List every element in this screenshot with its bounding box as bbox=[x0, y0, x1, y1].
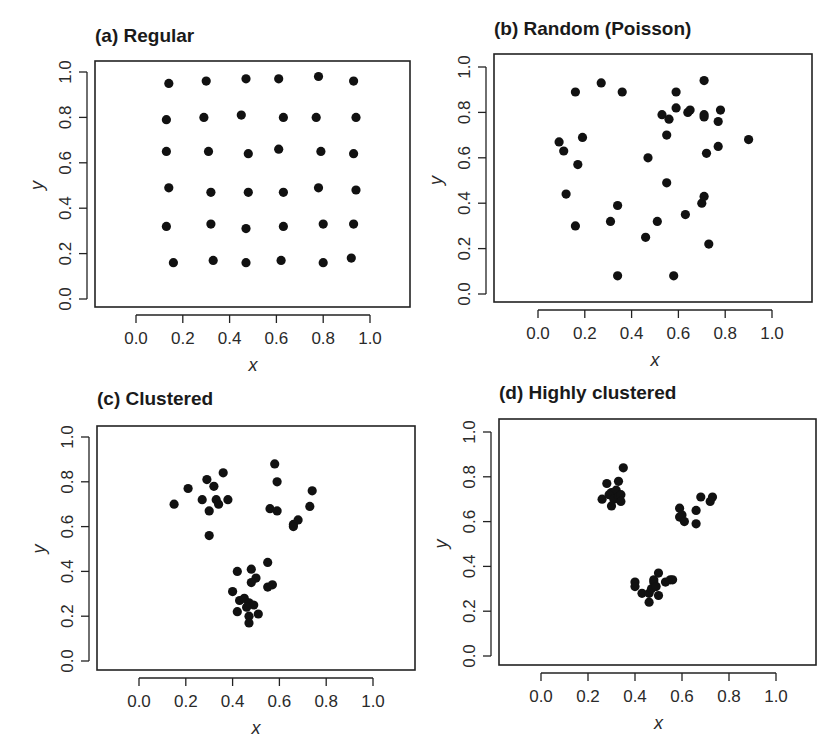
x-tick-label: 0.8 bbox=[713, 324, 737, 343]
data-point bbox=[233, 607, 242, 616]
x-axis-label: x bbox=[251, 718, 262, 738]
data-point bbox=[616, 497, 625, 506]
panel-c-clustered: (c) Clustered 0.00.20.40.60.81.0x0.00.20… bbox=[29, 388, 415, 738]
data-point bbox=[204, 147, 213, 156]
data-point bbox=[279, 113, 288, 122]
x-tick-label: 1.0 bbox=[760, 324, 784, 343]
data-point bbox=[607, 501, 616, 510]
y-axis: 0.00.20.40.60.81.0y bbox=[27, 60, 87, 311]
panel-d-highly-clustered: (d) Highly clustered 0.00.20.40.60.81.0x… bbox=[431, 382, 816, 733]
x-tick-label: 0.2 bbox=[576, 687, 600, 706]
data-point bbox=[700, 112, 709, 121]
y-tick-label: 0.4 bbox=[460, 555, 479, 579]
x-tick-label: 0.4 bbox=[218, 329, 242, 348]
y-tick-label: 0.2 bbox=[58, 604, 77, 628]
data-point bbox=[206, 188, 215, 197]
data-point bbox=[681, 210, 690, 219]
data-points bbox=[170, 459, 317, 627]
y-axis-label: y bbox=[27, 180, 47, 192]
data-point bbox=[202, 475, 211, 484]
plot-frame bbox=[499, 419, 816, 665]
data-point bbox=[247, 578, 256, 587]
y-axis-label: y bbox=[431, 539, 451, 551]
data-point bbox=[219, 468, 228, 477]
data-point bbox=[686, 106, 695, 115]
data-point bbox=[305, 502, 314, 511]
data-point bbox=[319, 220, 328, 229]
data-point bbox=[162, 147, 171, 156]
data-point bbox=[164, 183, 173, 192]
data-point bbox=[162, 115, 171, 124]
data-point bbox=[244, 149, 253, 158]
data-point bbox=[184, 484, 193, 493]
figure-caption-clipped bbox=[0, 748, 835, 754]
data-point bbox=[209, 256, 218, 265]
panel-b-random: (b) Random (Poisson) 0.00.20.40.60.81.0x… bbox=[426, 18, 812, 370]
y-tick-label: 0.2 bbox=[455, 237, 474, 261]
data-point bbox=[349, 220, 358, 229]
x-tick-label: 0.4 bbox=[623, 687, 647, 706]
x-tick-label: 0.0 bbox=[529, 687, 553, 706]
x-tick-label: 0.2 bbox=[573, 324, 597, 343]
data-point bbox=[199, 113, 208, 122]
data-point bbox=[274, 74, 283, 83]
y-axis: 0.00.20.40.60.81.0y bbox=[426, 55, 486, 306]
data-point bbox=[314, 72, 323, 81]
x-tick-label: 0.0 bbox=[127, 692, 151, 711]
y-tick-label: 0.2 bbox=[56, 242, 75, 266]
x-tick-label: 0.2 bbox=[174, 692, 198, 711]
data-point bbox=[700, 192, 709, 201]
y-tick-label: 0.0 bbox=[58, 649, 77, 673]
x-axis: 0.00.20.40.60.81.0x bbox=[127, 678, 385, 738]
data-point bbox=[214, 500, 223, 509]
data-point bbox=[652, 582, 661, 591]
data-point bbox=[242, 603, 251, 612]
data-point bbox=[696, 492, 705, 501]
data-point bbox=[241, 258, 250, 267]
x-tick-label: 0.0 bbox=[526, 324, 550, 343]
data-point bbox=[169, 258, 178, 267]
x-tick-label: 1.0 bbox=[764, 687, 788, 706]
data-point bbox=[662, 178, 671, 187]
y-tick-label: 0.8 bbox=[460, 465, 479, 489]
data-point bbox=[209, 482, 218, 491]
data-point bbox=[613, 271, 622, 280]
data-point bbox=[170, 500, 179, 509]
data-point bbox=[202, 77, 211, 86]
data-point bbox=[244, 618, 253, 627]
data-point bbox=[618, 87, 627, 96]
data-point bbox=[347, 254, 356, 263]
x-tick-label: 1.0 bbox=[358, 329, 382, 348]
data-point bbox=[273, 506, 282, 515]
y-tick-label: 0.6 bbox=[58, 515, 77, 539]
data-point bbox=[680, 517, 689, 526]
data-point bbox=[223, 495, 232, 504]
data-point bbox=[578, 133, 587, 142]
y-axis: 0.00.20.40.60.81.0y bbox=[431, 420, 491, 668]
data-point bbox=[662, 131, 671, 140]
data-point bbox=[716, 106, 725, 115]
y-tick-label: 0.0 bbox=[56, 287, 75, 311]
data-point bbox=[319, 258, 328, 267]
x-tick-label: 0.2 bbox=[171, 329, 195, 348]
data-point bbox=[205, 506, 214, 515]
y-tick-label: 0.0 bbox=[455, 282, 474, 306]
x-axis-label: x bbox=[650, 350, 661, 370]
x-tick-label: 0.6 bbox=[268, 692, 292, 711]
data-point bbox=[614, 477, 623, 486]
data-point bbox=[562, 190, 571, 199]
data-point bbox=[654, 569, 663, 578]
y-tick-label: 1.0 bbox=[58, 425, 77, 449]
data-point bbox=[602, 479, 611, 488]
data-point bbox=[316, 147, 325, 156]
data-points bbox=[162, 72, 361, 267]
data-point bbox=[672, 87, 681, 96]
y-tick-label: 0.6 bbox=[455, 146, 474, 170]
x-axis: 0.00.20.40.60.81.0x bbox=[124, 315, 382, 375]
y-tick-label: 0.6 bbox=[56, 151, 75, 175]
data-point bbox=[308, 486, 317, 495]
data-point bbox=[277, 256, 286, 265]
x-tick-label: 1.0 bbox=[361, 692, 385, 711]
data-point bbox=[162, 222, 171, 231]
data-point bbox=[668, 575, 677, 584]
